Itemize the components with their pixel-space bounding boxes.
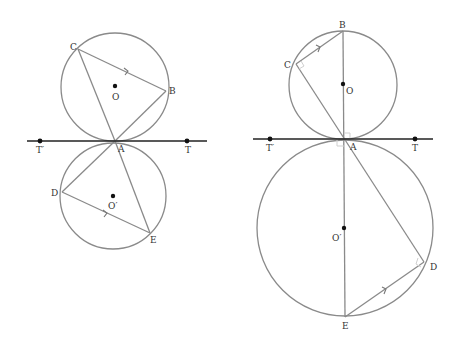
label-O-prime-right: O′ [332, 233, 341, 243]
point-T-prime-right [268, 137, 273, 142]
label-A-left: A [117, 144, 125, 154]
label-O-left: O [112, 92, 119, 102]
label-T-right: T [412, 143, 418, 153]
label-D-left: D [51, 188, 58, 198]
label-E-left: E [150, 235, 157, 245]
right-figure: B C O A T′ T O′ D E [253, 20, 437, 331]
label-D-right: D [430, 262, 437, 272]
label-A-right: A [349, 142, 357, 152]
diameter-BE-right [343, 31, 345, 317]
chord-DE-right [345, 262, 424, 317]
center-O-prime-left [111, 194, 115, 198]
label-T-left: T [185, 145, 191, 155]
chord-CB-left [78, 49, 166, 91]
label-B-right: B [339, 20, 346, 30]
parallel-arrow-DE-icon [103, 210, 107, 217]
label-O-right: O [346, 86, 353, 96]
diagram-canvas: C B O A T′ T D O′ E B [0, 0, 457, 349]
label-B-left: B [169, 86, 176, 96]
point-T-left [185, 139, 190, 144]
label-O-prime-left: O′ [108, 201, 117, 211]
center-O-prime-right [342, 226, 346, 230]
label-T-prime-right: T′ [266, 143, 274, 153]
label-E-right: E [342, 321, 349, 331]
label-C-left: C [70, 42, 77, 52]
point-T-right [413, 137, 418, 142]
point-T-prime-left [38, 139, 43, 144]
label-T-prime-left: T′ [36, 145, 44, 155]
chord-BA-left [115, 91, 166, 141]
left-figure: C B O A T′ T D O′ E [27, 33, 207, 249]
center-O-right [341, 82, 345, 86]
right-angle-C-icon [299, 61, 304, 69]
right-angle-D-icon [416, 258, 421, 267]
label-C-right: C [284, 60, 291, 70]
chord-AC-left [78, 49, 115, 141]
center-O-left [113, 84, 117, 88]
